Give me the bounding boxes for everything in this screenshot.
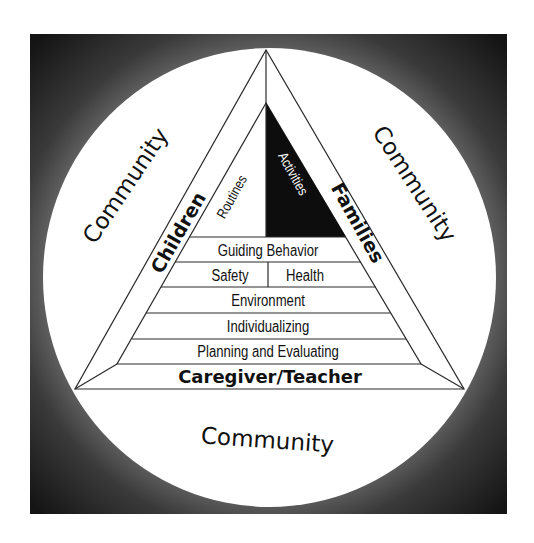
planning-evaluating-label: Planning and Evaluating (197, 343, 338, 360)
pyramid-diagram: Community Community Community Children F… (0, 0, 534, 543)
safety-label: Safety (211, 267, 249, 284)
individualizing-label: Individualizing (227, 318, 309, 335)
environment-label: Environment (231, 292, 305, 309)
caregiver-teacher-label: Caregiver/Teacher (178, 366, 362, 387)
health-label: Health (286, 267, 324, 284)
guiding-behavior-label: Guiding Behavior (218, 242, 319, 259)
